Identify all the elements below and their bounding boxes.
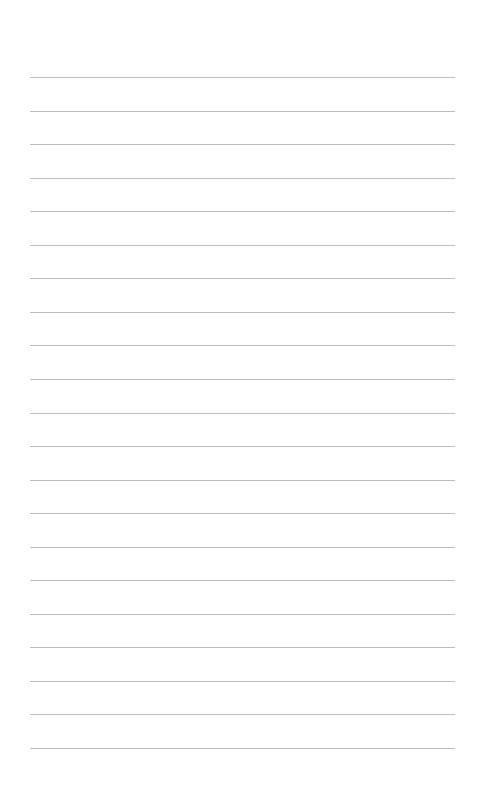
ruled-line	[30, 211, 455, 212]
ruled-line	[30, 748, 455, 749]
ruled-line	[30, 111, 455, 112]
ruled-line	[30, 647, 455, 648]
ruled-line	[30, 312, 455, 313]
ruled-line	[30, 144, 455, 145]
ruled-line	[30, 178, 455, 179]
ruled-line	[30, 379, 455, 380]
ruled-line	[30, 345, 455, 346]
ruled-line	[30, 681, 455, 682]
ruled-line	[30, 547, 455, 548]
ruled-line	[30, 278, 455, 279]
ruled-line	[30, 513, 455, 514]
ruled-line	[30, 446, 455, 447]
ruled-line	[30, 245, 455, 246]
ruled-line	[30, 580, 455, 581]
ruled-line	[30, 413, 455, 414]
ruled-line	[30, 480, 455, 481]
ruled-line	[30, 614, 455, 615]
lined-paper-page	[0, 0, 495, 812]
ruled-line	[30, 77, 455, 78]
ruled-line	[30, 714, 455, 715]
